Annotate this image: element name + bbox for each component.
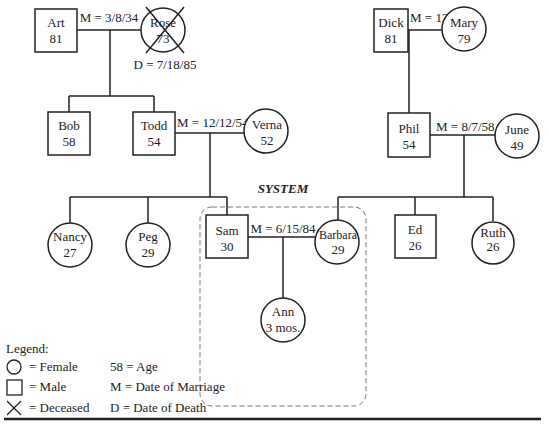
svg-text:= Deceased: = Deceased	[29, 400, 90, 415]
svg-text:29: 29	[332, 242, 345, 257]
marriage-sam-barbara: M = 6/15/84	[250, 221, 316, 236]
person-ed: Ed 26	[395, 215, 436, 258]
svg-text:Nancy: Nancy	[53, 229, 87, 244]
svg-text:Todd: Todd	[141, 118, 168, 133]
person-ruth: Ruth 26	[472, 222, 514, 264]
svg-text:Ed: Ed	[408, 222, 423, 237]
female-circle-icon	[7, 360, 21, 374]
svg-text:29: 29	[142, 245, 155, 260]
svg-text:54: 54	[148, 134, 162, 149]
person-sam: Sam 30	[206, 215, 248, 258]
svg-text:Ruth: Ruth	[480, 225, 506, 240]
svg-text:30: 30	[221, 239, 234, 254]
marriage-art-rose: M = 3/8/34	[80, 10, 139, 25]
person-phil: Phil 54	[388, 113, 430, 157]
person-mary: Mary 79	[442, 7, 486, 51]
svg-text:26: 26	[409, 238, 423, 253]
legend: Legend: = Female = Male = Deceased 58 = …	[6, 341, 225, 415]
person-peg: Peg 29	[126, 223, 170, 267]
genogram: SYSTEM Art 81 M = 3/8/34 Rose 73 D = 7/1…	[0, 0, 548, 428]
person-nancy: Nancy 27	[48, 223, 92, 267]
person-dick: Dick 81	[374, 9, 408, 52]
male-square-icon	[7, 380, 22, 395]
marriage-phil-june: M = 8/7/58	[436, 119, 495, 134]
svg-text:June: June	[505, 122, 529, 137]
death-date-rose: D = 7/18/85	[134, 57, 197, 72]
svg-text:Barbara: Barbara	[319, 228, 358, 242]
svg-text:Sam: Sam	[215, 223, 238, 238]
svg-text:58 = Age: 58 = Age	[110, 359, 158, 374]
person-todd: Todd 54	[133, 112, 175, 155]
svg-text:= Female: = Female	[29, 359, 78, 374]
svg-text:Ann: Ann	[272, 304, 295, 319]
person-june: June 49	[495, 114, 539, 158]
svg-text:Bob: Bob	[58, 118, 80, 133]
system-label: SYSTEM	[258, 181, 309, 196]
svg-text:M = Date of Marriage: M = Date of Marriage	[110, 379, 225, 394]
svg-text:52: 52	[261, 133, 274, 148]
svg-text:49: 49	[511, 138, 524, 153]
svg-text:Peg: Peg	[138, 229, 158, 244]
svg-text:54: 54	[403, 137, 417, 152]
deceased-x-icon	[7, 401, 21, 415]
svg-text:79: 79	[458, 31, 471, 46]
person-barbara: Barbara 29	[315, 220, 359, 264]
svg-text:81: 81	[385, 31, 398, 46]
svg-text:26: 26	[487, 239, 501, 254]
svg-text:Dick: Dick	[378, 15, 404, 30]
person-rose: Rose 73	[141, 7, 185, 53]
svg-text:58: 58	[63, 134, 76, 149]
person-verna: Verna 52	[244, 109, 288, 153]
marriage-todd-verna: M = 12/12/54	[177, 115, 249, 130]
svg-text:Art: Art	[47, 15, 65, 30]
svg-text:Verna: Verna	[252, 117, 283, 132]
person-art: Art 81	[35, 9, 77, 52]
svg-text:= Male: = Male	[29, 379, 67, 394]
person-bob: Bob 58	[48, 112, 90, 155]
person-ann: Ann 3 mos.	[261, 298, 305, 342]
legend-title: Legend:	[6, 341, 49, 356]
svg-text:Mary: Mary	[450, 15, 479, 30]
svg-text:27: 27	[64, 245, 78, 260]
svg-text:D = Date of Death: D = Date of Death	[110, 400, 207, 415]
svg-text:3 mos.: 3 mos.	[266, 320, 301, 335]
svg-text:Phil: Phil	[399, 121, 420, 136]
svg-text:81: 81	[50, 31, 63, 46]
